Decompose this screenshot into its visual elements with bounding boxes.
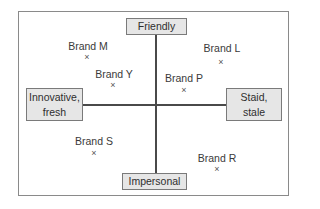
brand-r-label: Brand R bbox=[198, 152, 237, 164]
brand-p-label: Brand P bbox=[165, 72, 203, 84]
pole-impersonal: Impersonal bbox=[122, 173, 187, 190]
brand-m-marker-icon: × bbox=[84, 53, 89, 62]
brand-l-marker-icon: × bbox=[218, 58, 223, 67]
pole-staid-stale: Staid, stale bbox=[226, 88, 282, 121]
pole-innovative-fresh: Innovative, fresh bbox=[26, 88, 83, 121]
brand-y-label: Brand Y bbox=[95, 68, 133, 80]
brand-y-marker-icon: × bbox=[110, 81, 115, 90]
brand-l-label: Brand L bbox=[204, 42, 241, 54]
brand-s-label: Brand S bbox=[75, 135, 113, 147]
pole-friendly: Friendly bbox=[126, 18, 187, 35]
brand-p-marker-icon: × bbox=[181, 86, 186, 95]
brand-s-marker-icon: × bbox=[91, 149, 96, 158]
brand-r-marker-icon: × bbox=[214, 165, 219, 174]
horizontal-axis bbox=[83, 104, 226, 106]
brand-m-label: Brand M bbox=[68, 40, 108, 52]
